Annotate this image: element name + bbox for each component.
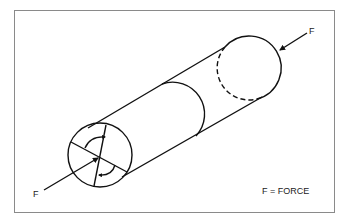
cylinder-diagram: F F F = FORCE [0, 0, 345, 219]
force-label-right: F [309, 26, 315, 36]
cylinder-middle-arc [162, 82, 205, 136]
force-label-left: F [33, 189, 39, 199]
cylinder-right-end-solid [225, 36, 281, 99]
legend-text: F = FORCE [262, 186, 309, 196]
force-arrow-right [280, 33, 307, 50]
cylinder-right-end-hidden [217, 47, 257, 100]
cylinder-bottom-edge [122, 97, 262, 177]
rotation-arrow-lower [99, 165, 115, 175]
